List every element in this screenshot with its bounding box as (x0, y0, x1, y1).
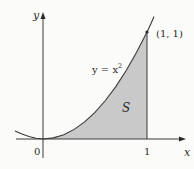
y-axis-arrow-icon (41, 12, 46, 19)
x-axis-arrow-icon (179, 137, 186, 142)
x-axis-label: x (184, 146, 191, 159)
point-1-1-marker (145, 30, 148, 33)
origin-label: 0 (34, 146, 40, 157)
region-label: S (122, 101, 130, 115)
shaded-region-s (43, 32, 147, 139)
curve-equation-main: y = x (91, 64, 118, 75)
y-axis-label: y (32, 9, 40, 22)
curve-equation-exponent: 2 (118, 62, 122, 70)
graph-canvas: y x 0 1 (1, 1) y = x2 S (0, 0, 194, 169)
curve-equation-label: y = x2 (91, 62, 122, 75)
x-tick-label-1: 1 (144, 146, 150, 157)
point-label: (1, 1) (156, 28, 183, 39)
